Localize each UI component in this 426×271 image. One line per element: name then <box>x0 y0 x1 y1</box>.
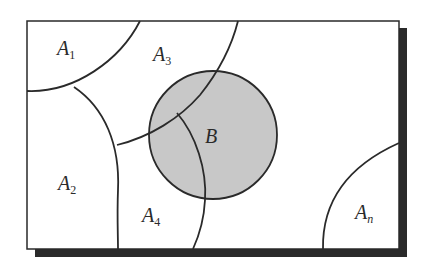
partition-diagram: A1 A3 A2 A4 An B <box>0 0 426 271</box>
frame-shadow-bottom <box>35 249 407 257</box>
label-b: B <box>205 125 217 147</box>
frame-shadow-right <box>399 28 407 257</box>
